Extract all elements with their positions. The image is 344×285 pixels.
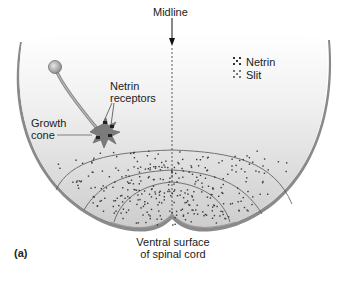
netrin-receptors-line-2: receptors: [110, 92, 156, 104]
netrin-receptors-line-1: Netrin: [110, 80, 156, 92]
netrin-receptor: [108, 134, 112, 137]
netrin-dot-icon: [233, 57, 242, 66]
cell-body-soma: [49, 61, 62, 74]
legend-label-slit: Slit: [246, 69, 261, 81]
spinal-cord-diagram: Midline Netrin receptors Growth cone Ven…: [0, 0, 344, 285]
growth-cone-line-2: cone: [31, 129, 66, 141]
midline-label: Midline: [153, 6, 188, 18]
panel-label: (a): [14, 247, 27, 259]
legend: Netrin Slit: [233, 55, 275, 81]
netrin-receptor: [110, 125, 114, 128]
ventral-label-line-1: Ventral surface: [118, 236, 228, 248]
ventral-surface-label: Ventral surface of spinal cord: [118, 236, 228, 260]
slit-dot-icon: [233, 70, 242, 79]
growth-cone-label: Growth cone: [31, 117, 66, 141]
netrin-receptors-label: Netrin receptors: [110, 80, 156, 104]
legend-label-netrin: Netrin: [246, 56, 275, 68]
legend-item-netrin: Netrin: [233, 55, 275, 68]
netrin-receptor: [96, 136, 100, 139]
legend-item-slit: Slit: [233, 68, 275, 81]
growth-cone-line-1: Growth: [31, 117, 66, 129]
netrin-receptor: [103, 121, 107, 124]
ventral-label-line-2: of spinal cord: [118, 248, 228, 260]
